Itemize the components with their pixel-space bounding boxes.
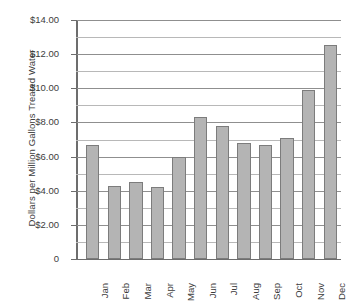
x-axis-tick-label: Aug [250, 283, 262, 306]
x-axis-tick-label: Jan [99, 283, 111, 306]
x-axis-line [76, 259, 341, 260]
x-axis-tick-label: Mar [142, 283, 154, 306]
y-axis-tick [71, 225, 77, 226]
bar [324, 45, 337, 259]
bar [86, 145, 99, 259]
bar [259, 145, 272, 259]
y-axis-tick [71, 54, 77, 55]
bar-slot [172, 20, 185, 259]
bar-slot [129, 20, 142, 259]
y-axis-tick [71, 157, 77, 158]
x-axis-tick-label: Jun [207, 283, 219, 306]
bar-series [78, 20, 341, 259]
y-axis-tick-label: $2.00 [0, 220, 59, 230]
y-axis-tick [71, 191, 77, 192]
bar [172, 157, 185, 259]
bar-slot [194, 20, 207, 259]
bar [108, 186, 121, 259]
y-axis-tick [71, 88, 77, 89]
bar [151, 187, 164, 259]
bar [216, 126, 229, 259]
x-axis-tick-label: Apr [164, 283, 176, 306]
plot-area: 0$2.00$4.00$6.00$8.00$10.00$12.00$14.00 … [76, 20, 341, 259]
x-axis-tick-label: Jul [228, 283, 240, 306]
y-axis-tick-label: $10.00 [0, 83, 59, 93]
bar-chart: Dollars per Million Gallons Treated Wate… [0, 0, 346, 306]
x-axis-tick-label: Dec [336, 283, 346, 306]
y-axis-tick-label: 0 [0, 254, 59, 264]
bar-slot [216, 20, 229, 259]
bar [302, 90, 315, 259]
y-axis-tick [71, 259, 77, 260]
x-axis-tick-label: Feb [120, 283, 132, 306]
bar [129, 182, 142, 259]
bar [237, 143, 250, 259]
bar-slot [151, 20, 164, 259]
y-axis-tick-label: $12.00 [0, 49, 59, 59]
x-axis-tick-label: Sep [271, 283, 283, 306]
y-axis-tick-label: $8.00 [0, 117, 59, 127]
y-axis-tick [71, 20, 77, 21]
x-axis-tick-label: Oct [293, 283, 305, 306]
y-axis-tick-label: $14.00 [0, 15, 59, 25]
bar-slot [86, 20, 99, 259]
y-axis-tick [71, 122, 77, 123]
bar-slot [280, 20, 293, 259]
x-axis-tick-label: Nov [315, 283, 327, 306]
bar-slot [324, 20, 337, 259]
bar-slot [237, 20, 250, 259]
x-axis-tick-label: May [185, 283, 197, 306]
y-axis-tick-label: $4.00 [0, 186, 59, 196]
y-axis-tick-label: $6.00 [0, 152, 59, 162]
bar [280, 138, 293, 259]
bar [194, 117, 207, 259]
bar-slot [259, 20, 272, 259]
bar-slot [108, 20, 121, 259]
bar-slot [302, 20, 315, 259]
